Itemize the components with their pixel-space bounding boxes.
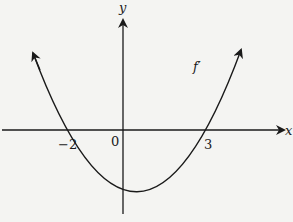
tick-label-3: 3 <box>204 137 212 152</box>
curve-label-f-prime: f′ <box>192 59 201 74</box>
tick-label-neg2: −2 <box>58 137 77 152</box>
curve-f-prime <box>33 50 241 192</box>
x-axis-label: x <box>285 123 293 138</box>
y-axis-label: y <box>118 0 127 15</box>
curve-left-arrow <box>33 53 40 70</box>
graph-svg: y x 0 −2 3 f′ <box>0 0 293 222</box>
graph-figure: y x 0 −2 3 f′ <box>0 0 293 222</box>
origin-label: 0 <box>111 134 119 149</box>
